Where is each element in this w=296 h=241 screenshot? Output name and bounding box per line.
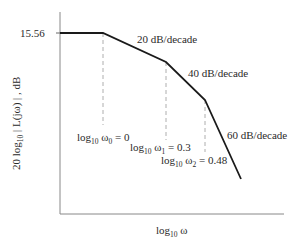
- y-axis-label: 20 log10 | L(jω) | , dB: [10, 77, 22, 170]
- subscript: 10: [91, 137, 99, 146]
- text: ω: [178, 224, 188, 236]
- text: = 0.3: [165, 141, 190, 153]
- slope-annotation-60: 60 dB/decade: [227, 130, 287, 141]
- text: log: [156, 224, 170, 236]
- text: = 0.48: [196, 154, 227, 166]
- text: ω: [183, 154, 193, 166]
- text: log: [77, 131, 91, 143]
- text: 20 log: [10, 142, 22, 170]
- text: ω: [152, 141, 162, 153]
- subscript: 10: [170, 230, 178, 239]
- subscript: 10: [16, 135, 25, 143]
- subscript: 0: [109, 137, 113, 146]
- subscript: 10: [175, 160, 183, 169]
- breakpoint-label-2: log10 ω2 = 0.48: [161, 155, 227, 166]
- breakpoint-label-1: log10 ω1 = 0.3: [130, 142, 191, 153]
- text: log: [130, 141, 144, 153]
- slope-annotation-20: 20 dB/decade: [137, 34, 197, 45]
- subscript: 2: [193, 160, 197, 169]
- text: log: [161, 154, 175, 166]
- text: = 0: [112, 131, 129, 143]
- text: | L(jω) | , dB: [10, 77, 22, 135]
- slope-annotation-40: 40 dB/decade: [188, 68, 248, 79]
- breakpoint-label-0: log10 ω0 = 0: [77, 132, 130, 143]
- subscript: 10: [144, 147, 152, 156]
- x-axis-label: log10 ω: [156, 225, 188, 236]
- ytick-label: 15.56: [20, 28, 45, 39]
- text: ω: [99, 131, 109, 143]
